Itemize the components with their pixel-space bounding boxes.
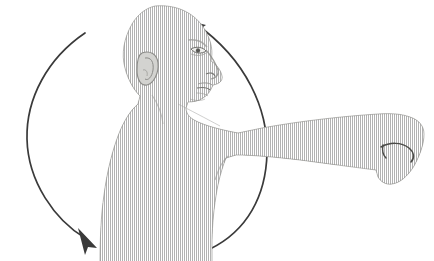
pupil [196,48,200,53]
shoulder-circumduction-illustration [0,0,434,261]
illustration-canvas: Shoulder circumduction exercise Bald hum… [0,0,434,261]
